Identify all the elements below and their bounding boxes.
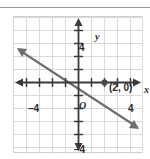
plotted-point-2-0 (101, 79, 107, 85)
coordinate-plane: y x O 4 –4 4 –4 (2, 0) (13, 16, 143, 153)
y-axis-label: y (95, 31, 99, 42)
y-tick-label-4: 4 (79, 42, 85, 53)
x-tick-label-negative-4: –4 (28, 103, 39, 114)
graph-figure: y x O 4 –4 4 –4 (2, 0) (0, 0, 150, 159)
x-axis-label: x (144, 84, 149, 95)
origin-label: O (79, 100, 86, 111)
point-coordinate-label: (2, 0) (109, 82, 132, 93)
y-tick-label-negative-4: –4 (74, 144, 85, 155)
x-tick-label-4: 4 (128, 103, 134, 114)
top-divider-rule (0, 7, 150, 8)
